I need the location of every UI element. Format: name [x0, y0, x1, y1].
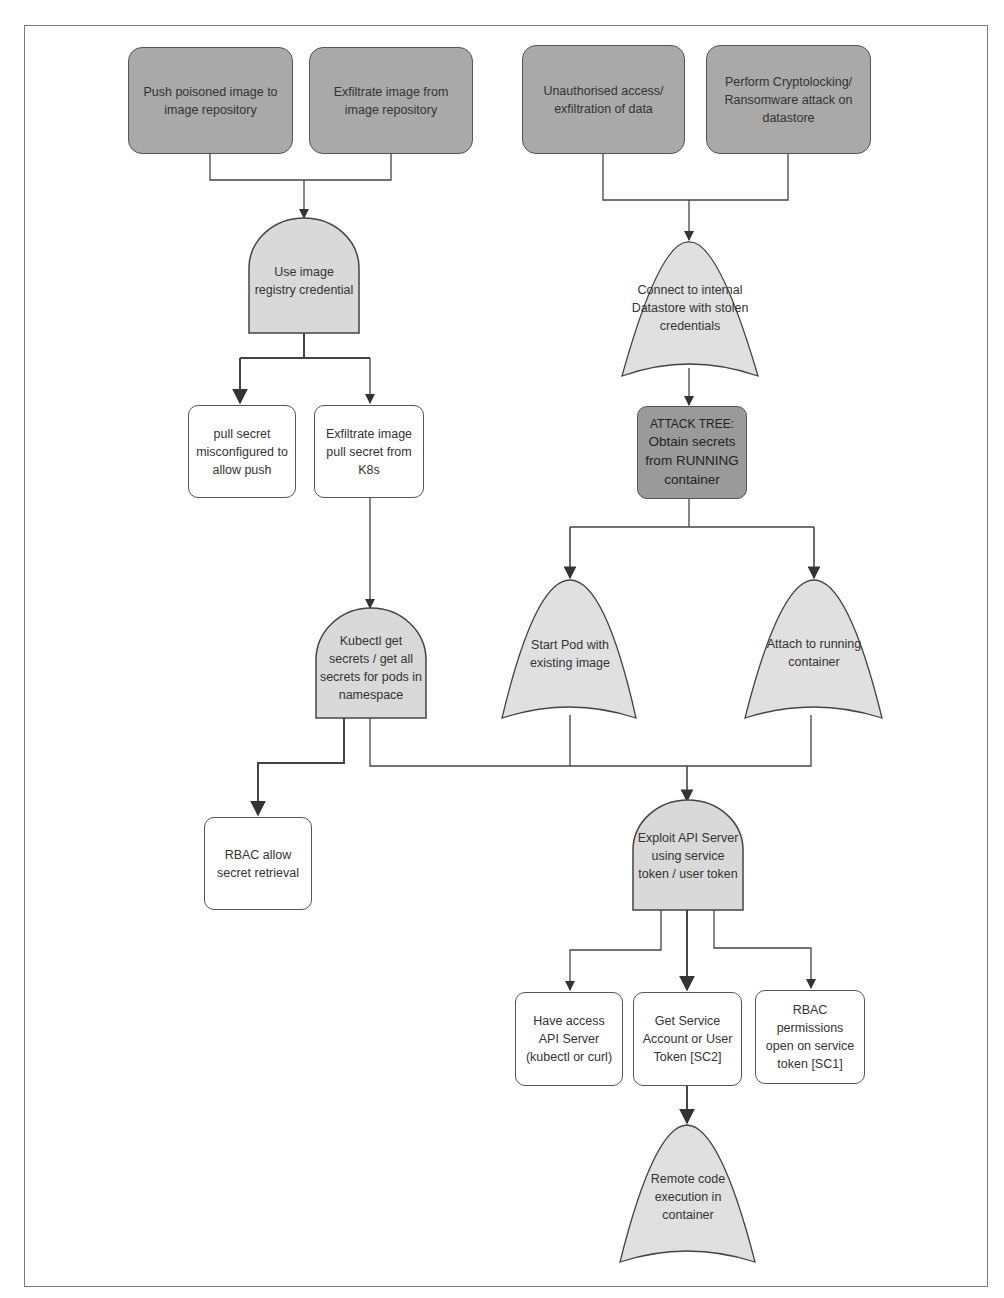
- leaf-label: RBAC allow secret retrieval: [205, 846, 311, 882]
- attack-tree-heading: ATTACK TREE:: [644, 417, 740, 432]
- leaf-have-access: Have access API Server (kubectl or curl): [515, 992, 623, 1086]
- gate-label-use-credential: Use image registry credential: [252, 248, 356, 314]
- attack-tree-diagram: Push poisoned image to image repository …: [0, 0, 1004, 1298]
- goal-label: Push poisoned image to image repository: [129, 83, 292, 119]
- goal-label: Perform Cryptolocking/ Ransomware attack…: [707, 73, 870, 127]
- gate-label-exploit-api: Exploit API Server using service token /…: [636, 816, 740, 896]
- leaf-label: Have access API Server (kubectl or curl): [516, 1012, 622, 1066]
- leaf-label: Exfiltrate image pull secret from K8s: [315, 425, 423, 479]
- attack-tree-body: Obtain secrets from RUNNING container: [638, 432, 746, 489]
- arrow-to-have-access: [570, 910, 661, 990]
- leaf-label: Get Service Account or User Token [SC2]: [634, 1012, 741, 1066]
- goal-exfiltrate-image: Exfiltrate image from image repository: [309, 47, 473, 154]
- leaf-rbac-permissions: RBAC permissions open on service token […: [755, 990, 865, 1084]
- leaf-rbac-allow: RBAC allow secret retrieval: [204, 817, 312, 910]
- gate-label-rce: Remote code execution in container: [636, 1164, 740, 1230]
- connector-goals-left: [210, 154, 391, 180]
- leaf-exfil-pull-secret: Exfiltrate image pull secret from K8s: [314, 405, 424, 498]
- gate-label-attach: Attach to running container: [762, 620, 866, 686]
- arrow-to-rbac-perm: [714, 910, 811, 988]
- gate-label-kubectl: Kubectl get secrets / get all secrets fo…: [318, 628, 424, 708]
- gate-label-connect-datastore: Connect to internal Datastore with stole…: [628, 268, 752, 348]
- gate-label-start-pod: Start Pod with existing image: [516, 632, 624, 676]
- goal-unauthorised-access: Unauthorised access/ exfiltration of dat…: [522, 45, 685, 154]
- goal-label: Unauthorised access/ exfiltration of dat…: [523, 82, 684, 118]
- attack-tree-reference[interactable]: ATTACK TREE: Obtain secrets from RUNNING…: [637, 406, 747, 499]
- goal-label: Exfiltrate image from image repository: [310, 83, 472, 119]
- leaf-get-service-account: Get Service Account or User Token [SC2]: [633, 992, 742, 1086]
- leaf-label: RBAC permissions open on service token […: [756, 1001, 864, 1073]
- leaf-pull-secret: pull secret misconfigured to allow push: [188, 405, 296, 498]
- arrow-to-rbac-allow: [258, 718, 344, 815]
- goal-push-poisoned-image: Push poisoned image to image repository: [128, 47, 293, 154]
- connector-goals-right: [603, 154, 788, 200]
- goal-cryptolocking: Perform Cryptolocking/ Ransomware attack…: [706, 45, 871, 154]
- leaf-label: pull secret misconfigured to allow push: [189, 425, 295, 479]
